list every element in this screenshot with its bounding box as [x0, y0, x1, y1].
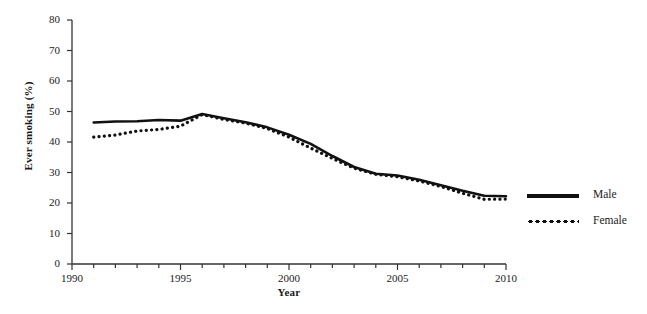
- legend-label-male: Male: [593, 188, 617, 200]
- y-tick-label: 70: [34, 45, 60, 56]
- x-tick-label: 2010: [483, 273, 529, 284]
- y-axis-ticks: [67, 20, 72, 264]
- chart-container: Ever smoking (%) Year 01020304050607080 …: [0, 0, 647, 314]
- x-tick-label: 2000: [266, 273, 312, 284]
- y-tick-label: 30: [34, 167, 60, 178]
- series-line-male: [94, 114, 506, 196]
- x-tick-label: 1995: [158, 273, 204, 284]
- x-axis-ticks: [72, 264, 506, 270]
- x-tick-label: 2005: [375, 273, 421, 284]
- y-tick-label: 40: [34, 136, 60, 147]
- data-series-layer: [94, 114, 506, 199]
- y-tick-label: 60: [34, 75, 60, 86]
- legend-swatch-solid-line: [527, 194, 579, 198]
- plot-area: [0, 0, 647, 314]
- legend-label-female: Female: [593, 214, 627, 226]
- series-line-female: [94, 115, 506, 200]
- x-axis-title: Year: [72, 286, 506, 298]
- y-tick-label: 10: [34, 228, 60, 239]
- x-tick-label: 1990: [49, 273, 95, 284]
- y-tick-label: 20: [34, 197, 60, 208]
- y-tick-label: 50: [34, 106, 60, 117]
- axis-lines: [72, 20, 506, 264]
- y-axis-title: Ever smoking (%): [22, 36, 34, 216]
- legend-swatch-dotted-line: [527, 220, 579, 223]
- y-tick-label: 0: [34, 258, 60, 269]
- y-tick-label: 80: [34, 14, 60, 25]
